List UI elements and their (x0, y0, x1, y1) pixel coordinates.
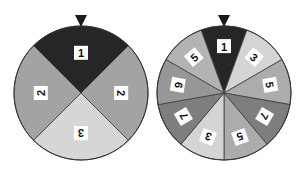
spinner-wheel-a: 1232 (14, 15, 148, 160)
sector-label: 3 (74, 126, 88, 140)
sector-label: 2 (114, 86, 128, 100)
sector-number: 1 (221, 41, 227, 53)
sector-label: 1 (217, 39, 231, 53)
pointer-arrow-icon (75, 15, 87, 27)
sector-label: 1 (74, 46, 88, 60)
sector-number: 3 (78, 127, 84, 139)
sector-number: 2 (115, 90, 127, 96)
spinner-wheel-b: 135753795 (157, 15, 291, 160)
pointer-arrow-icon (218, 15, 230, 27)
sector-label: 9 (170, 77, 186, 93)
sector-number: 1 (78, 47, 84, 59)
spinner-diagram: 1232 135753795 (0, 0, 302, 169)
sector-label: 5 (262, 77, 278, 93)
sector-label: 2 (34, 86, 48, 100)
sector-number: 2 (35, 90, 47, 96)
